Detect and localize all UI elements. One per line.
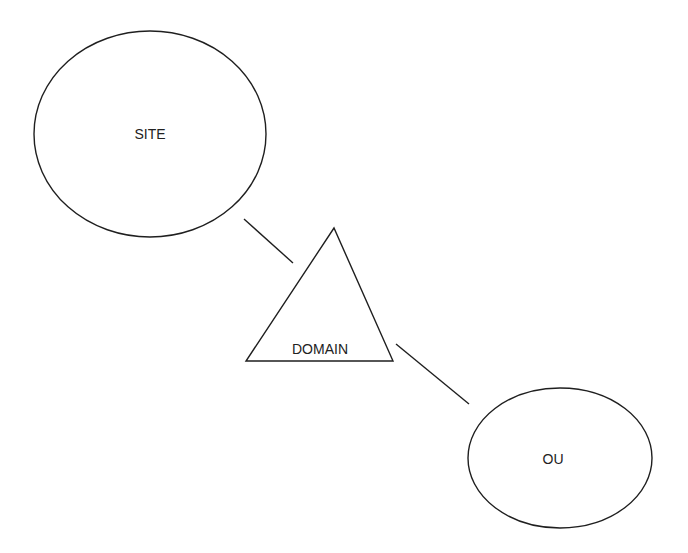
site-label: SITE [134,126,165,142]
node-site: SITE [34,31,266,237]
edge-domain-ou [396,344,469,404]
node-ou: OU [468,388,652,528]
domain-label: DOMAIN [292,341,348,357]
diagram-canvas: SITE DOMAIN OU [0,0,688,553]
ou-label: OU [543,451,564,467]
edge-site-domain [244,219,293,263]
node-domain: DOMAIN [246,228,393,361]
